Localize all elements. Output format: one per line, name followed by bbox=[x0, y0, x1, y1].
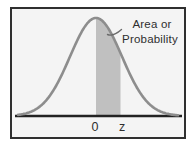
annotation-label-line2: Probability bbox=[122, 33, 178, 45]
tick-label-0: 0 bbox=[92, 120, 99, 134]
annotation-label-line1: Area or bbox=[132, 18, 171, 30]
normal-distribution-figure: Area or Probability 0 z bbox=[0, 0, 196, 149]
tick-label-z: z bbox=[119, 120, 125, 134]
figure-canvas: Area or Probability 0 z bbox=[0, 0, 196, 149]
